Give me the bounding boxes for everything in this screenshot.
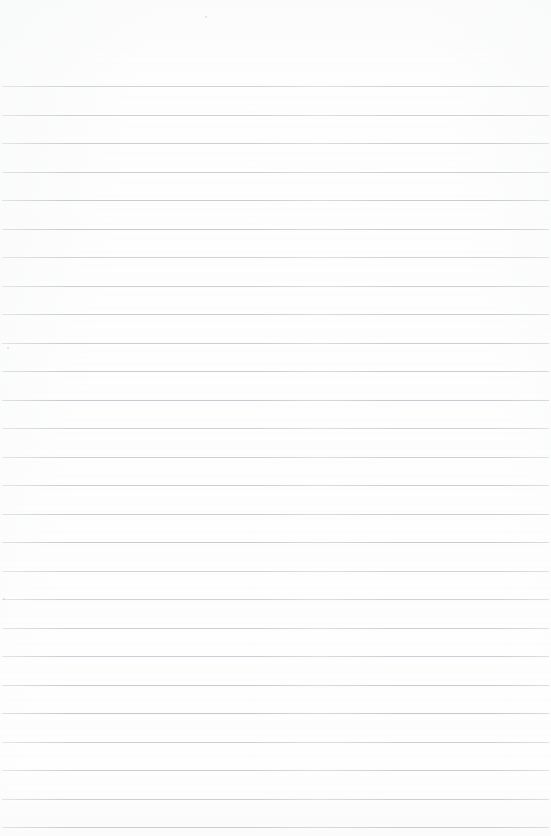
scan-speck: [3, 598, 5, 600]
scan-speck: [7, 347, 9, 349]
scan-artifact-layer: [0, 0, 551, 836]
scan-speck: [205, 16, 207, 18]
scanned-page: [0, 0, 551, 836]
